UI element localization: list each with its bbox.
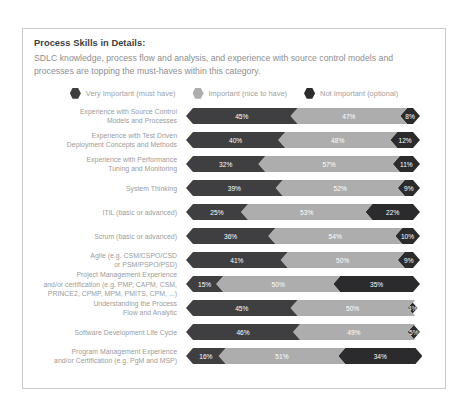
chart-row-label-line: Deployment Concepts and Methods xyxy=(34,140,177,149)
chart-row: Software Development Life Cycle46%49%5% xyxy=(34,321,434,344)
chart-row-label: Experience with PerformanceTuning and Mo… xyxy=(34,155,186,173)
chart-row-label: Program Management Experienceand/or Cert… xyxy=(34,347,186,365)
bar-segment: 50% xyxy=(281,252,405,268)
bar-segment: 34% xyxy=(338,348,422,364)
chart-row-label-line: ITIL (basic or advanced) xyxy=(34,208,177,217)
stacked-bar: 46%49%5% xyxy=(186,324,434,340)
bar-segment-value: 12% xyxy=(398,137,411,144)
chart-row-label: Agile (e.g. CSM/CSPO/CSDor PSM/PSPO/PSD) xyxy=(34,251,186,269)
chart-row-label: Understanding the ProcessFlow and Analyt… xyxy=(34,299,186,317)
chart-row: Scrum (basic or advanced)36%54%10% xyxy=(34,225,434,248)
chart-rows: Experience with Source ControlModels and… xyxy=(34,105,434,368)
bar-segment-value: 22% xyxy=(386,209,399,216)
bar-segment: 50% xyxy=(216,276,340,292)
bar-segment: 47% xyxy=(291,108,408,124)
chart-row: Experience with Source ControlModels and… xyxy=(34,105,434,128)
stacked-bar: 25%53%22% xyxy=(186,204,434,220)
bar-segment-value: 10% xyxy=(401,233,414,240)
chart-row-label-line: or PSM/PSPO/PSD) xyxy=(34,260,177,269)
bar-segment-value: 47% xyxy=(342,113,355,120)
chart-row: Program Management Experienceand/or Cert… xyxy=(34,345,434,368)
chart-row-label-line: Models and Processes xyxy=(34,116,177,125)
stacked-bar: 40%48%12% xyxy=(186,132,434,148)
bar-segment-value: 50% xyxy=(336,257,349,264)
bar-segment-value: 50% xyxy=(272,281,285,288)
bar-segment: 45% xyxy=(186,300,298,316)
chart-row-label-line: Understanding the Process xyxy=(34,299,177,308)
bar-segment: 46% xyxy=(186,324,300,340)
chart-row-label-line: Experience with Test Driven xyxy=(34,131,177,140)
chart-row-label-line: Flow and Analytic xyxy=(34,308,177,317)
hexagon-icon xyxy=(70,88,81,99)
bar-segment-value: 32% xyxy=(219,161,232,168)
chart-row-label: Scrum (basic or advanced) xyxy=(34,232,186,241)
chart-row-label-line: and/or certification (e.g. PMP, CAPM, CS… xyxy=(34,280,177,289)
bar-segment-value: 35% xyxy=(370,281,383,288)
chart-row-label-line: Experience with Source Control xyxy=(34,107,177,116)
chart-row-label: Experience with Source ControlModels and… xyxy=(34,107,186,125)
chart-row-label-line: Program Management Experience xyxy=(34,347,177,356)
chart-row: System Thinking39%52%9% xyxy=(34,177,434,200)
bar-segment: 22% xyxy=(365,204,420,220)
chart-row: ITIL (basic or advanced)25%53%22% xyxy=(34,201,434,224)
bar-segment-value: 57% xyxy=(322,161,335,168)
bar-segment: 40% xyxy=(186,132,285,148)
bar-segment: 25% xyxy=(186,204,248,220)
bar-segment-value: 16% xyxy=(199,353,212,360)
bar-segment-value: 11% xyxy=(400,161,413,168)
chart-row: Project Management Experienceand/or cert… xyxy=(34,273,434,296)
bar-segment-value: 54% xyxy=(329,233,342,240)
bar-segment-value: 41% xyxy=(230,257,243,264)
bar-segment-value: 51% xyxy=(275,353,288,360)
bar-segment-value: 36% xyxy=(224,233,237,240)
chart-row-label: Software Development Life Cycle xyxy=(34,328,186,337)
bar-segment-value: 45% xyxy=(235,305,248,312)
stacked-bar: 32%57%11% xyxy=(186,156,434,172)
chart-row-label-line: Scrum (basic or advanced) xyxy=(34,232,177,241)
bar-segment-value: 39% xyxy=(228,185,241,192)
stacked-bar: 45%50%4% xyxy=(186,300,434,316)
stacked-bar: 41%50%9% xyxy=(186,252,434,268)
chart-row-label-line: Tuning and Monitoring xyxy=(34,164,177,173)
bar-segment-value: 49% xyxy=(347,329,360,336)
legend-item-label: Not Important (optional) xyxy=(320,89,398,98)
bar-segment: 53% xyxy=(241,204,372,220)
chart-subtitle: SDLC knowledge, process flow and analysi… xyxy=(34,52,434,77)
bar-segment: 50% xyxy=(291,300,415,316)
chart-legend: Very Important (must have)Important (nic… xyxy=(34,88,434,99)
chart-row-label: System Thinking xyxy=(34,184,186,193)
legend-item-label: Very Important (must have) xyxy=(86,89,176,98)
chart-row: Agile (e.g. CSM/CSPO/CSDor PSM/PSPO/PSD)… xyxy=(34,249,434,272)
bar-segment: 51% xyxy=(219,348,345,364)
bar-segment-value: 53% xyxy=(300,209,313,216)
bar-segment: 48% xyxy=(278,132,397,148)
chart-row-label-line: PRINCE2, CPMP, MPM, PMITS, CPM, ...) xyxy=(34,289,177,298)
chart-row-label: ITIL (basic or advanced) xyxy=(34,208,186,217)
chart-row-label-line: Software Development Life Cycle xyxy=(34,328,177,337)
chart-row-label: Experience with Test DrivenDeployment Co… xyxy=(34,131,186,149)
hexagon-icon xyxy=(304,88,315,99)
legend-item: Not Important (optional) xyxy=(304,88,398,99)
chart-row-label-line: Experience with Performance xyxy=(34,155,177,164)
page-title: Process Skills in Details: xyxy=(34,38,434,49)
bar-segment-value: 8% xyxy=(405,113,415,120)
legend-item: Very Important (must have) xyxy=(70,88,176,99)
bar-segment: 32% xyxy=(186,156,265,172)
bar-segment-value: 25% xyxy=(210,209,223,216)
hexagon-icon xyxy=(193,88,204,99)
bar-segment-value: 15% xyxy=(198,281,211,288)
bar-segment-value: 34% xyxy=(374,353,387,360)
bar-segment: 35% xyxy=(333,276,420,292)
stacked-bar: 45%47%8% xyxy=(186,108,434,124)
bar-segment-value: 9% xyxy=(404,185,414,192)
chart-row-label-line: Agile (e.g. CSM/CSPO/CSD xyxy=(34,251,177,260)
legend-item: Important (nice to have) xyxy=(193,88,288,99)
chart-row-label-line: Project Management Experience xyxy=(34,270,177,279)
bar-segment-value: 48% xyxy=(331,137,344,144)
chart-row: Experience with PerformanceTuning and Mo… xyxy=(34,153,434,176)
chart-card: Process Skills in Details: SDLC knowledg… xyxy=(22,28,446,389)
bar-segment: 52% xyxy=(276,180,405,196)
stacked-bar: 36%54%10% xyxy=(186,228,434,244)
bar-segment: 41% xyxy=(186,252,288,268)
bar-segment: 54% xyxy=(268,228,402,244)
